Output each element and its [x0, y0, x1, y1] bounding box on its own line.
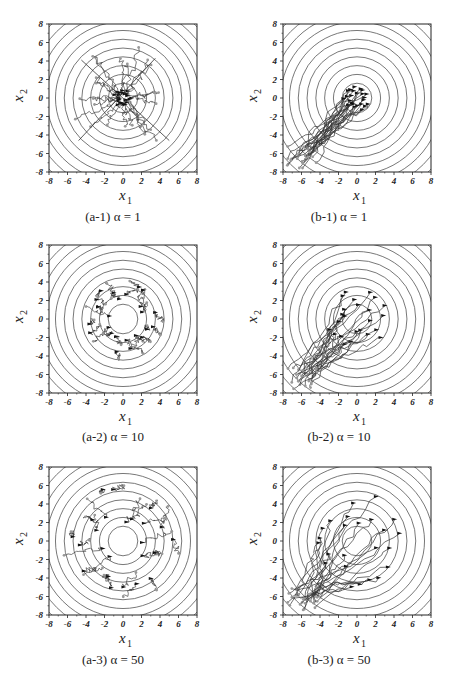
x-tick-label: 8 — [429, 619, 434, 629]
x-tick-label: 6 — [410, 176, 415, 186]
y-tick-label: -4 — [36, 130, 44, 140]
x-axis-label: x — [352, 187, 360, 203]
x-tick-label: -2 — [335, 619, 343, 629]
x-tick-label: 6 — [176, 619, 181, 629]
plot-a-1: -8-8-6-6-4-4-2-20022446688x1x2 — [0, 0, 226, 200]
svg-text:2: 2 — [18, 89, 29, 94]
x-tick-label: -6 — [298, 176, 306, 186]
x-tick-label: -2 — [101, 176, 109, 186]
x-tick-label: -8 — [45, 619, 53, 629]
y-tick-label: -6 — [270, 149, 278, 159]
x-tick-label: 4 — [157, 397, 163, 407]
y-tick-label: 4 — [38, 56, 44, 66]
y-tick-label: 4 — [272, 56, 278, 66]
x-tick-label: 2 — [372, 176, 378, 186]
x-tick-label: 8 — [429, 176, 434, 186]
x-tick-label: 4 — [157, 619, 163, 629]
y-tick-label: 8 — [273, 19, 278, 29]
plot-a-3: -8-8-6-6-4-4-2-20022446688x1x2 — [0, 443, 226, 643]
svg-text:x: x — [10, 538, 26, 546]
y-tick-label: 8 — [273, 240, 278, 250]
x-tick-label: 6 — [176, 176, 181, 186]
x-tick-label: 2 — [138, 619, 144, 629]
x-tick-label: 2 — [372, 397, 378, 407]
x-tick-label: 6 — [410, 619, 415, 629]
y-tick-label: 2 — [272, 518, 278, 528]
x-tick-label: -2 — [101, 397, 109, 407]
y-tick-label: -6 — [36, 370, 44, 380]
plot-b-1: -8-8-6-6-4-4-2-20022446688x1x2 — [226, 0, 452, 200]
y-tick-label: -8 — [270, 167, 278, 177]
y-tick-label: 6 — [273, 481, 278, 491]
x-tick-label: 0 — [121, 397, 126, 407]
y-axis-label: x2 — [244, 532, 263, 546]
panel-a-1: -8-8-6-6-4-4-2-20022446688x1x2(a-1) α = … — [0, 0, 226, 230]
x-tick-label: -6 — [298, 619, 306, 629]
panel-a-3: -8-8-6-6-4-4-2-20022446688x1x2(a-3) α = … — [0, 443, 226, 673]
y-tick-label: -8 — [36, 167, 44, 177]
plot-b-3: -8-8-6-6-4-4-2-20022446688x1x2 — [226, 443, 452, 643]
svg-text:x: x — [244, 538, 260, 546]
y-tick-label: -4 — [36, 573, 44, 583]
x-tick-label: 8 — [195, 397, 200, 407]
svg-text:1: 1 — [361, 195, 366, 206]
plot-b-2: -8-8-6-6-4-4-2-20022446688x1x2 — [226, 221, 452, 421]
svg-text:1: 1 — [361, 416, 366, 427]
caption-b-3: (b-3) α = 50 — [226, 652, 452, 668]
x-tick-label: 8 — [429, 397, 434, 407]
y-tick-label: -4 — [270, 573, 278, 583]
x-tick-label: -4 — [316, 619, 324, 629]
caption-a-3: (a-3) α = 50 — [0, 652, 226, 668]
y-tick-label: 8 — [39, 240, 44, 250]
svg-text:2: 2 — [252, 89, 263, 94]
y-tick-label: 6 — [273, 38, 278, 48]
svg-text:x: x — [10, 95, 26, 103]
y-axis-label: x2 — [10, 532, 29, 546]
y-tick-label: 0 — [273, 314, 278, 324]
svg-text:1: 1 — [127, 638, 132, 649]
x-tick-label: -8 — [279, 397, 287, 407]
svg-text:x: x — [244, 95, 260, 103]
x-tick-label: 2 — [138, 397, 144, 407]
y-tick-label: -2 — [36, 333, 44, 343]
y-tick-label: -4 — [270, 351, 278, 361]
x-tick-label: 0 — [121, 176, 126, 186]
panel-b-3: -8-8-6-6-4-4-2-20022446688x1x2(b-3) α = … — [226, 443, 452, 673]
y-tick-label: 8 — [39, 462, 44, 472]
panel-b-2: -8-8-6-6-4-4-2-20022446688x1x2(b-2) α = … — [226, 221, 452, 451]
x-tick-label: 8 — [195, 176, 200, 186]
x-tick-label: -6 — [64, 397, 72, 407]
y-axis-label: x2 — [244, 310, 263, 324]
x-tick-label: -8 — [279, 176, 287, 186]
x-tick-label: 4 — [391, 397, 397, 407]
y-tick-label: -2 — [36, 112, 44, 122]
x-tick-label: 4 — [157, 176, 163, 186]
x-tick-label: -4 — [316, 176, 324, 186]
y-tick-label: 4 — [38, 499, 44, 509]
plot-a-2: -8-8-6-6-4-4-2-20022446688x1x2 — [0, 221, 226, 421]
x-axis-label: x — [118, 408, 126, 424]
y-tick-label: 4 — [272, 277, 278, 287]
y-tick-label: 2 — [38, 75, 44, 85]
y-tick-label: 2 — [272, 75, 278, 85]
x-tick-label: -2 — [335, 176, 343, 186]
x-tick-label: 0 — [355, 176, 360, 186]
y-tick-label: -2 — [270, 333, 278, 343]
x-axis-label: x — [118, 630, 126, 646]
y-axis-label: x2 — [10, 310, 29, 324]
svg-text:2: 2 — [18, 532, 29, 537]
y-tick-label: 8 — [39, 19, 44, 29]
y-tick-label: -4 — [36, 351, 44, 361]
y-tick-label: 0 — [39, 93, 44, 103]
x-tick-label: -8 — [45, 176, 53, 186]
svg-text:2: 2 — [252, 532, 263, 537]
svg-text:1: 1 — [127, 416, 132, 427]
y-tick-label: -2 — [36, 555, 44, 565]
y-tick-label: 6 — [273, 259, 278, 269]
panel-a-2: -8-8-6-6-4-4-2-20022446688x1x2(a-2) α = … — [0, 221, 226, 451]
x-tick-label: 2 — [138, 176, 144, 186]
x-tick-label: 4 — [391, 619, 397, 629]
x-axis-label: x — [352, 408, 360, 424]
y-tick-label: 2 — [38, 296, 44, 306]
y-tick-label: 6 — [39, 481, 44, 491]
